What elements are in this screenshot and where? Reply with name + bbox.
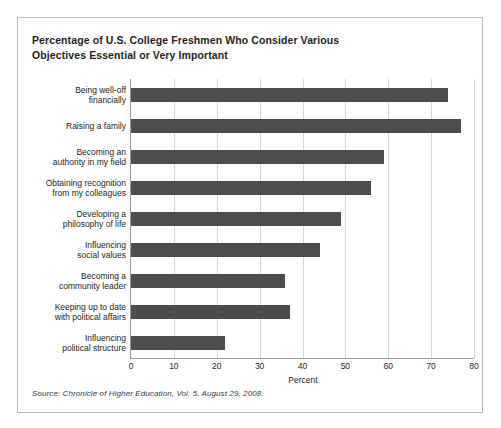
bar-row: Raising a family — [131, 119, 474, 133]
x-tick-label-40: 40 — [298, 361, 307, 371]
x-tick-label-80: 80 — [469, 361, 478, 371]
bar — [131, 181, 371, 195]
category-label-line: philosophy of life — [14, 219, 126, 230]
category-label-line: Developing a — [14, 208, 126, 219]
category-label-line: authority in my field — [14, 157, 126, 168]
bar — [131, 150, 384, 164]
x-tick-label-50: 50 — [341, 361, 350, 371]
bar — [131, 243, 320, 257]
x-tick-label-70: 70 — [426, 361, 435, 371]
category-label-line: Influencing — [14, 332, 126, 343]
category-label-line: Influencing — [14, 239, 126, 250]
x-tick-label-0: 0 — [129, 361, 134, 371]
category-label: Influencingsocial values — [14, 239, 126, 260]
source-note: Source: Chronicle of Higher Education, V… — [32, 389, 264, 398]
category-label-line: community leader — [14, 281, 126, 292]
category-label: Being well-offfinancially — [14, 84, 126, 105]
category-label: Raising a family — [14, 120, 126, 131]
category-label-line: from my colleagues — [14, 188, 126, 199]
category-label-line: financially — [14, 95, 126, 106]
plot-wrapper: Percent 01020304050607080Being well-offf… — [18, 18, 484, 414]
category-label-line: Becoming an — [14, 146, 126, 157]
category-label-line: political structure — [14, 343, 126, 354]
category-label: Becoming acommunity leader — [14, 270, 126, 291]
bar — [131, 88, 448, 102]
gridline-80 — [474, 79, 475, 358]
category-label-line: Being well-off — [14, 84, 126, 95]
category-label-line: with political affairs — [14, 312, 126, 323]
category-label-line: Obtaining recognition — [14, 177, 126, 188]
bar — [131, 305, 290, 319]
bar-row: Being well-offfinancially — [131, 88, 474, 102]
bar — [131, 212, 341, 226]
bar-row: Influencingsocial values — [131, 243, 474, 257]
category-label: Becoming anauthority in my field — [14, 146, 126, 167]
plot-area: Percent 01020304050607080Being well-offf… — [130, 79, 474, 359]
bar-row: Becoming acommunity leader — [131, 274, 474, 288]
bar — [131, 119, 461, 133]
category-label-line: Becoming a — [14, 270, 126, 281]
x-tick-label-30: 30 — [255, 361, 264, 371]
category-label: Obtaining recognitionfrom my colleagues — [14, 177, 126, 198]
bar — [131, 336, 225, 350]
category-label-line: Raising a family — [14, 120, 126, 131]
bar-row: Developing aphilosophy of life — [131, 212, 474, 226]
x-tick-label-60: 60 — [384, 361, 393, 371]
category-label-line: Keeping up to date — [14, 301, 126, 312]
bar-row: Influencingpolitical structure — [131, 336, 474, 350]
x-tick-label-10: 10 — [169, 361, 178, 371]
x-axis-title: Percent — [131, 375, 475, 385]
figure-frame: Percentage of U.S. College Freshmen Who … — [17, 17, 483, 413]
category-label: Developing aphilosophy of life — [14, 208, 126, 229]
bar-row: Keeping up to datewith political affairs — [131, 305, 474, 319]
category-label: Influencingpolitical structure — [14, 332, 126, 353]
x-tick-label-20: 20 — [212, 361, 221, 371]
bar-row: Becoming anauthority in my field — [131, 150, 474, 164]
bar-row: Obtaining recognitionfrom my colleagues — [131, 181, 474, 195]
bar — [131, 274, 285, 288]
category-label: Keeping up to datewith political affairs — [14, 301, 126, 322]
category-label-line: social values — [14, 250, 126, 261]
